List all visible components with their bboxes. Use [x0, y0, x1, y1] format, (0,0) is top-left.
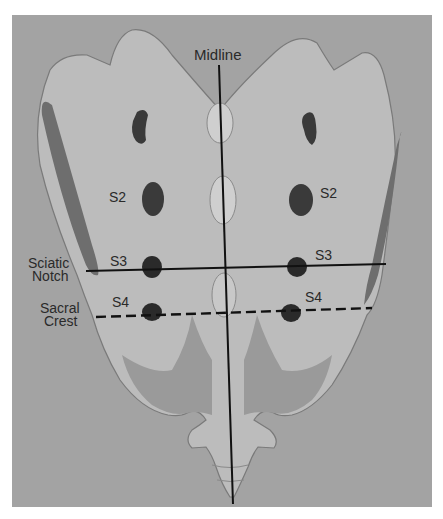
left-s3-foramen — [142, 256, 162, 278]
sciatic-notch-label-line2: Notch — [28, 270, 69, 283]
left-s4-label: S4 — [112, 295, 129, 309]
left-s4-foramen — [142, 303, 162, 321]
right-s4-label: S4 — [305, 290, 322, 304]
right-s4-foramen — [281, 304, 301, 322]
figure-panel: Midline S2 S2 S3 S3 S4 S4 Sciatic Notch … — [12, 15, 432, 507]
right-s2-foramen — [289, 184, 313, 216]
median-tubercle-3 — [212, 273, 236, 317]
sacral-crest-label-line2: Crest — [40, 315, 80, 328]
midline-label: Midline — [194, 48, 242, 62]
sacral-crest-label: Sacral Crest — [40, 302, 80, 328]
sciatic-notch-label: Sciatic Notch — [28, 257, 69, 283]
right-s3-label: S3 — [315, 248, 332, 262]
sacrum-illustration — [12, 15, 432, 507]
left-s3-label: S3 — [110, 254, 127, 268]
right-s2-label: S2 — [320, 186, 337, 200]
left-s2-foramen — [142, 182, 164, 216]
left-s2-label: S2 — [109, 190, 126, 204]
